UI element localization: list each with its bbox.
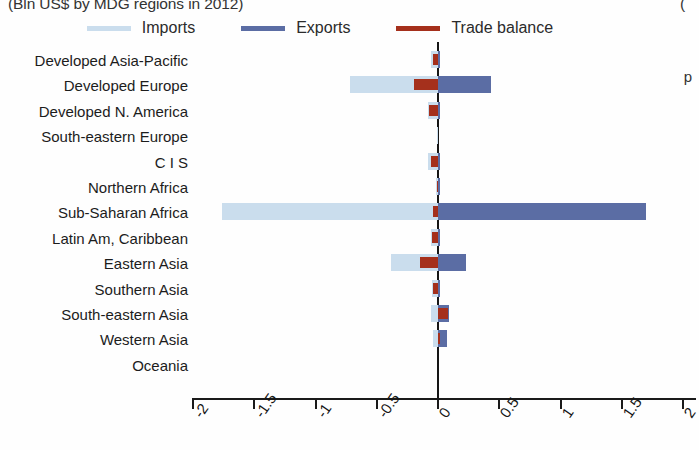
bar-group xyxy=(193,277,696,301)
category-label: C I S xyxy=(155,153,188,170)
bar-exports xyxy=(438,153,440,170)
category-axis-labels: Developed Asia-PacificDeveloped EuropeDe… xyxy=(0,46,193,398)
bar-group xyxy=(193,99,696,123)
bar-trade-balance xyxy=(433,54,438,65)
chart-legend: Imports Exports Trade balance xyxy=(0,16,640,40)
bar-group xyxy=(193,175,696,199)
bar-trade-balance xyxy=(433,206,438,217)
bar-trade-balance xyxy=(438,308,448,319)
chart-title: (Bln US$ by MDG regions in 2012) xyxy=(8,0,243,13)
bar-group xyxy=(193,327,696,351)
bar-group xyxy=(193,124,696,148)
legend-swatch-trade-balance xyxy=(396,26,440,31)
category-label: Southern Asia xyxy=(95,280,188,297)
bar-trade-balance xyxy=(431,156,438,167)
bar-trade-balance xyxy=(432,232,438,243)
bar-exports xyxy=(438,102,440,119)
axis-tick-label: 0 xyxy=(435,404,454,421)
category-label: Eastern Asia xyxy=(104,255,188,272)
category-label: Northern Africa xyxy=(88,179,188,196)
chart-title-right-fragment: ( xyxy=(680,0,694,13)
legend-item-trade-balance: Trade balance xyxy=(396,19,553,37)
value-axis: -2-1.5-1-0.500.511.52 xyxy=(193,398,696,450)
legend-item-exports: Exports xyxy=(241,19,350,37)
bar-exports xyxy=(438,51,440,68)
category-label: Sub-Saharan Africa xyxy=(58,204,188,221)
bar-group xyxy=(193,353,696,377)
category-label: Developed N. America xyxy=(39,102,188,119)
axis-tick-label: 1 xyxy=(558,404,577,421)
legend-label-imports: Imports xyxy=(142,19,195,37)
bar-trade-balance xyxy=(414,79,439,90)
category-label: Developed Asia-Pacific xyxy=(35,52,188,69)
bar-trade-balance xyxy=(420,257,438,268)
legend-label-trade-balance: Trade balance xyxy=(451,19,553,37)
bars-container xyxy=(193,46,696,398)
bar-exports xyxy=(438,254,466,271)
bar-trade-balance xyxy=(433,283,438,294)
bar-group xyxy=(193,150,696,174)
bar-trade-balance xyxy=(438,333,440,344)
bar-imports xyxy=(437,127,439,144)
bar-group xyxy=(193,200,696,224)
bar-imports xyxy=(222,203,438,220)
bar-group xyxy=(193,226,696,250)
bar-group xyxy=(193,251,696,275)
bar-exports xyxy=(438,76,491,93)
category-label: Western Asia xyxy=(100,331,188,348)
bar-exports xyxy=(438,203,646,220)
bar-imports xyxy=(431,305,438,322)
plot-area: Developed Asia-PacificDeveloped EuropeDe… xyxy=(0,46,696,398)
bar-group xyxy=(193,48,696,72)
category-label: Oceania xyxy=(132,356,188,373)
bar-trade-balance xyxy=(437,181,439,192)
category-label: Latin Am, Caribbean xyxy=(52,229,188,246)
bar-group xyxy=(193,73,696,97)
axis-tick-label: 2 xyxy=(680,404,699,421)
legend-swatch-exports xyxy=(241,26,285,31)
bar-group xyxy=(193,302,696,326)
category-label: South-eastern Asia xyxy=(61,306,188,323)
bar-exports xyxy=(438,229,440,246)
legend-item-imports: Imports xyxy=(87,19,195,37)
category-label: Developed Europe xyxy=(64,77,188,94)
bar-exports xyxy=(438,280,440,297)
legend-swatch-imports xyxy=(87,26,131,31)
legend-label-exports: Exports xyxy=(296,19,350,37)
bar-trade-balance xyxy=(429,105,438,116)
category-label: South-eastern Europe xyxy=(41,128,188,145)
